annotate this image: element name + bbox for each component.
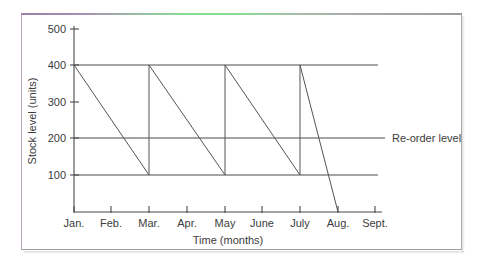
y-tick-label-300: 300: [48, 96, 66, 108]
x-tick-label-july: July: [290, 217, 310, 229]
stock-level-chart: 500 400 300 200 100 Stock level (units) …: [0, 0, 484, 268]
x-tick-label-mar: Mar.: [138, 217, 159, 229]
x-tick-label-june: June: [250, 217, 274, 229]
figure-container: 500 400 300 200 100 Stock level (units) …: [0, 0, 484, 268]
y-tick-label-200: 200: [48, 132, 66, 144]
x-tick-label-may: May: [215, 217, 236, 229]
x-tick-label-jan: Jan.: [64, 217, 85, 229]
x-tick-label-aug: Aug.: [327, 217, 350, 229]
x-tick-label-apr: Apr.: [177, 217, 197, 229]
y-tick-label-400: 400: [48, 59, 66, 71]
x-tick-label-sept: Sept.: [362, 217, 388, 229]
y-tick-label-500: 500: [48, 23, 66, 35]
reorder-level-label: Re-order level: [392, 132, 461, 144]
y-tick-label-100: 100: [48, 169, 66, 181]
y-axis-title: Stock level (units): [26, 78, 38, 165]
x-axis-title: Time (months): [193, 234, 264, 246]
x-tick-label-feb: Feb.: [100, 217, 122, 229]
